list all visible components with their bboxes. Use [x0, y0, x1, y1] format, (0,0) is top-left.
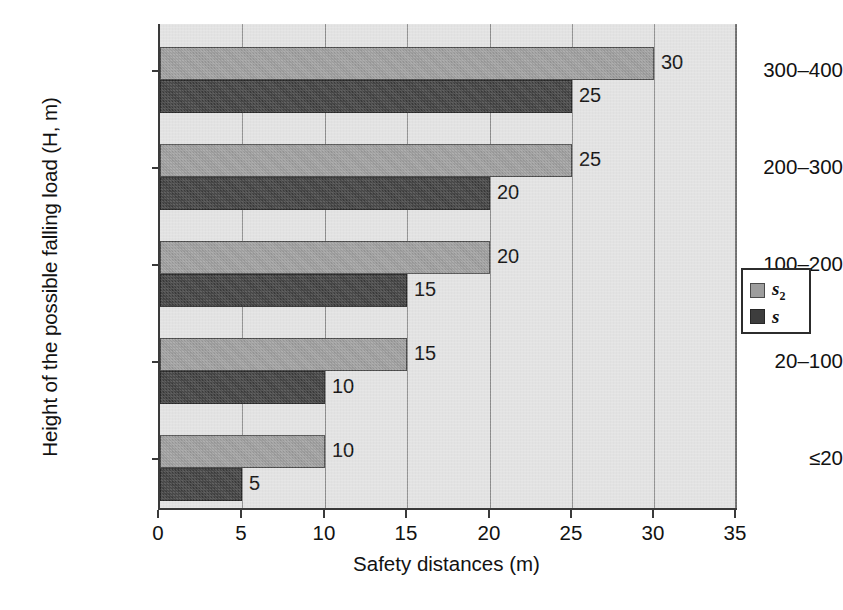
gridline-30 — [654, 24, 655, 508]
x-tick-35 — [734, 510, 736, 518]
bar-value-s2-20-100: 15 — [414, 343, 436, 363]
bar-s2-20-100[interactable] — [160, 338, 407, 371]
x-tick-label-0: 0 — [152, 521, 163, 545]
x-tick-label-30: 30 — [642, 521, 665, 545]
y-tick-lte-20 — [152, 458, 160, 460]
bar-value-s2-300-400: 30 — [661, 52, 683, 72]
x-tick-label-15: 15 — [395, 521, 418, 545]
y-axis-title: Height of the possible falling load (H, … — [38, 57, 62, 497]
gridline-25 — [572, 24, 573, 508]
bar-s-200-300[interactable] — [160, 177, 490, 210]
legend-item-s2[interactable]: s2 — [750, 279, 785, 302]
bar-value-s-100-200: 15 — [414, 279, 436, 299]
bar-texture — [161, 469, 241, 500]
legend-label-s2: s2 — [772, 279, 785, 302]
bar-s-20-100[interactable] — [160, 371, 325, 404]
x-tick-label-10: 10 — [313, 521, 336, 545]
x-tick-5 — [240, 510, 242, 518]
bar-texture — [161, 178, 489, 209]
bar-value-s2-200-300: 25 — [579, 149, 601, 169]
x-tick-20 — [488, 510, 490, 518]
gridline-35-right-edge — [735, 24, 737, 508]
bar-s-100-200[interactable] — [160, 274, 407, 307]
x-tick-label-5: 5 — [235, 521, 246, 545]
plot-area: 30 25 25 20 20 15 — [158, 24, 737, 510]
x-tick-0 — [157, 510, 159, 518]
legend-swatch-s2-icon — [750, 283, 765, 298]
x-tick-label-20: 20 — [478, 521, 501, 545]
y-tick-20-100 — [152, 361, 160, 363]
bar-s2-200-300[interactable] — [160, 144, 572, 177]
x-tick-label-25: 25 — [560, 521, 583, 545]
bar-texture — [161, 275, 406, 306]
x-tick-25 — [570, 510, 572, 518]
y-tick-100-200 — [152, 264, 160, 266]
x-tick-10 — [323, 510, 325, 518]
bar-value-s2-100-200: 20 — [497, 246, 519, 266]
bar-s2-300-400[interactable] — [160, 47, 654, 80]
legend: s2 s — [741, 268, 811, 334]
y-tick-200-300 — [152, 167, 160, 169]
bar-texture — [161, 48, 653, 79]
bar-value-s-lte-20: 5 — [249, 473, 260, 493]
x-tick-15 — [405, 510, 407, 518]
legend-label-s: s — [772, 307, 779, 326]
bar-chart-figure: Height of the possible falling load (H, … — [0, 0, 843, 610]
bar-value-s2-lte-20: 10 — [332, 440, 354, 460]
y-tick-300-400 — [152, 70, 160, 72]
bar-texture — [161, 242, 489, 273]
legend-swatch-s-icon — [750, 309, 765, 324]
bar-s-300-400[interactable] — [160, 80, 572, 113]
bar-texture — [161, 339, 406, 370]
legend-item-s[interactable]: s — [750, 307, 779, 326]
x-tick-label-35: 35 — [724, 521, 747, 545]
bar-texture — [161, 436, 324, 467]
bar-s-lte-20[interactable] — [160, 468, 242, 501]
bar-s2-100-200[interactable] — [160, 241, 490, 274]
bar-value-s-20-100: 10 — [332, 376, 354, 396]
x-axis-title: Safety distances (m) — [158, 552, 735, 576]
bar-s2-lte-20[interactable] — [160, 435, 325, 468]
bar-value-s-200-300: 20 — [497, 182, 519, 202]
x-tick-30 — [652, 510, 654, 518]
bar-texture — [161, 372, 324, 403]
bar-value-s-300-400: 25 — [579, 85, 601, 105]
bar-texture — [161, 145, 571, 176]
bar-texture — [161, 81, 571, 112]
